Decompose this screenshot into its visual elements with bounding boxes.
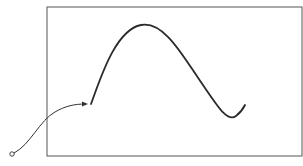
- arrowhead-icon: [82, 102, 88, 107]
- origin-marker: [10, 152, 14, 156]
- plot-frame: [47, 7, 302, 156]
- wave-curve: [91, 25, 245, 118]
- connector-arrow-line: [14, 104, 85, 153]
- diagram-canvas: [0, 0, 303, 166]
